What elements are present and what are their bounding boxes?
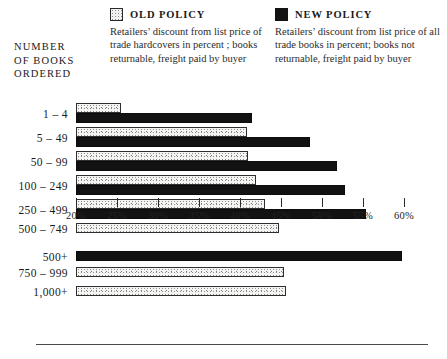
legend-head-new-policy: NEW POLICY: [275, 6, 445, 22]
axis-tick-mark: [404, 198, 405, 207]
axis-tick-mark: [158, 198, 159, 207]
legend-description-new-policy: Retailers’ discount from list price of a…: [275, 25, 445, 65]
axis-tick-mark: [199, 198, 200, 207]
axis-tick-mark: [281, 198, 282, 207]
legend-head-old-policy: OLD POLICY: [110, 6, 275, 22]
bar-new-policy: [76, 251, 402, 261]
legend-description-old-policy: Retailers’ discount from list price of t…: [110, 25, 275, 65]
category-label: 750 – 999: [0, 267, 68, 279]
bottom-rule-divider: [36, 344, 428, 345]
y-axis-title: NUMBER OF BOOKS ORDERED: [14, 40, 74, 81]
legend-entry-old-policy: OLD POLICY Retailers’ discount from list…: [110, 6, 275, 65]
bar-old-policy: [76, 151, 248, 161]
bar-new-policy: [76, 161, 337, 171]
bar-old-policy: [76, 103, 121, 113]
axis-tick-mark: [117, 198, 118, 207]
bar-old-policy: [76, 267, 284, 277]
new-policy-swatch-icon: [275, 8, 288, 21]
old-policy-swatch-icon: [110, 8, 123, 21]
legend-title-new-policy: NEW POLICY: [295, 9, 372, 20]
axis-tick-label: 20%: [66, 210, 86, 221]
bar-old-policy: [76, 127, 247, 137]
bar-new-policy: [76, 185, 345, 195]
category-label: 100 – 249: [0, 180, 68, 192]
category-label: 5 – 49: [0, 132, 68, 144]
bar-new-policy: [76, 113, 252, 123]
axis-tick-label: 35%: [189, 210, 209, 221]
axis-tick-label: 45%: [271, 210, 291, 221]
category-label: 500+: [0, 251, 68, 263]
legend-entry-new-policy: NEW POLICY Retailers’ discount from list…: [275, 6, 445, 65]
bar-new-policy: [76, 137, 310, 147]
axis-tick-label: 40%: [230, 210, 250, 221]
bar-old-policy: [76, 286, 286, 296]
category-label: 50 – 99: [0, 156, 68, 168]
axis-tick-label: 50%: [312, 210, 332, 221]
axis-tick-label: 55%: [353, 210, 373, 221]
category-label: 1,000+: [0, 286, 68, 298]
axis-tick-label: 60%: [394, 210, 414, 221]
axis-tick-mark: [240, 198, 241, 207]
bar-old-policy: [76, 175, 256, 185]
x-axis: 20%25%30%35%40%45%50%55%60%: [0, 198, 447, 230]
axis-tick-mark: [322, 198, 323, 207]
axis-tick-mark: [363, 198, 364, 207]
axis-tick-label: 25%: [107, 210, 127, 221]
legend-title-old-policy: OLD POLICY: [130, 9, 205, 20]
category-label: 1 – 4: [0, 108, 68, 120]
axis-tick-label: 30%: [148, 210, 168, 221]
axis-tick-mark: [76, 198, 77, 207]
